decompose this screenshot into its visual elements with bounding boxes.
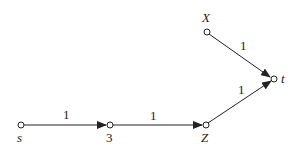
- node-label-X: X: [201, 10, 211, 25]
- edge-weight-3-Z: 1: [150, 108, 157, 123]
- edge-weight-X-t: 1: [240, 38, 247, 53]
- edge-weight-Z-t: 1: [238, 82, 245, 97]
- node-Z: [203, 122, 209, 128]
- node-t: [271, 76, 277, 82]
- graph-diagram: 1 1 1 1 s 3 Z t X: [0, 0, 301, 151]
- node-label-t: t: [281, 71, 285, 86]
- node-s: [18, 122, 24, 128]
- node-X: [204, 29, 210, 35]
- node-3: [107, 122, 113, 128]
- node-label-s: s: [17, 130, 22, 145]
- node-label-Z: Z: [201, 130, 209, 145]
- node-label-3: 3: [106, 130, 113, 145]
- edge-weight-s-3: 1: [63, 107, 70, 122]
